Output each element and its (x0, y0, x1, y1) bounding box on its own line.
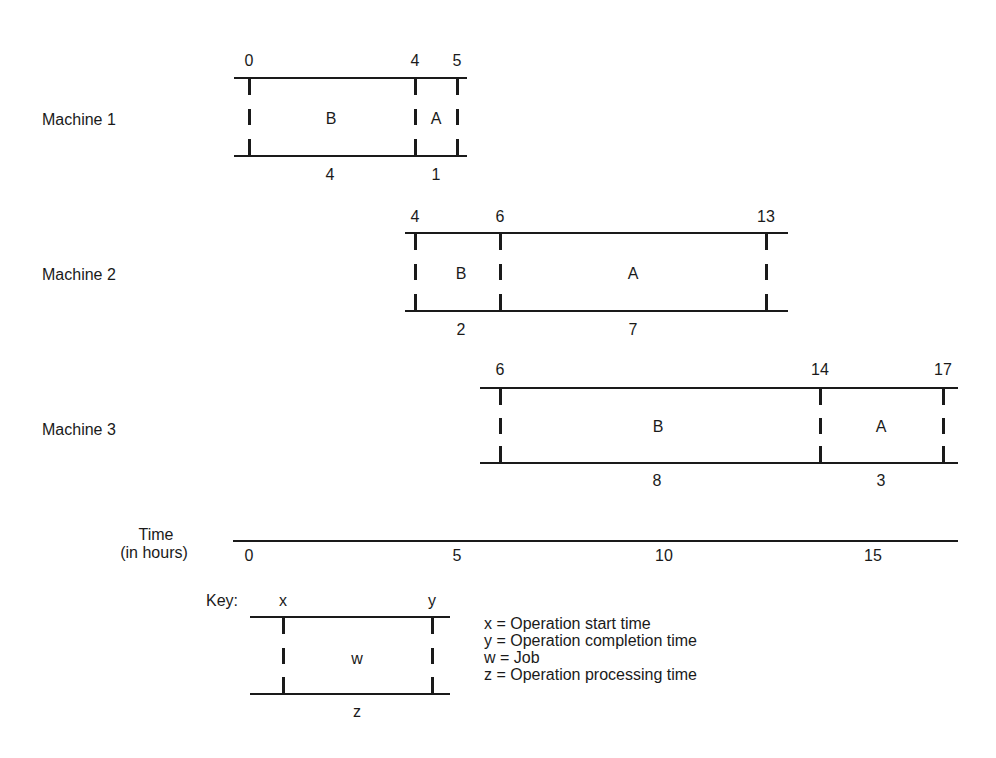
legend-def-job: w = Job (484, 649, 697, 666)
time-tick-5: 5 (453, 547, 462, 565)
machine-2-start-time: 4 (411, 208, 420, 226)
legend-duration-symbol: z (353, 703, 361, 721)
legend-divider-start (282, 618, 285, 693)
machine-2-end-time: 13 (757, 208, 775, 226)
machine-3-divider-mid (819, 389, 822, 462)
machine-3-job-b: B (653, 418, 664, 436)
legend-end-symbol: y (428, 592, 436, 610)
machine-2-bottom-line (405, 310, 788, 312)
time-tick-15: 15 (864, 547, 882, 565)
machine-1-divider-start (248, 79, 251, 155)
legend-bottom-line (250, 693, 450, 695)
machine-3-top-line (480, 387, 958, 389)
legend-divider-end (431, 618, 434, 693)
machine-1-label: Machine 1 (42, 111, 116, 129)
machine-1-duration-a: 1 (432, 166, 441, 184)
time-tick-10: 10 (655, 547, 673, 565)
machine-2-duration-b: 2 (457, 321, 466, 339)
machine-2-divider-start (414, 234, 417, 310)
machine-2-top-line (405, 232, 788, 234)
machine-1-divider-mid (414, 79, 417, 155)
machine-3-duration-a: 3 (877, 472, 886, 490)
machine-1-duration-b: 4 (326, 166, 335, 184)
time-axis-label-line1: Time (139, 526, 174, 544)
machine-1-job-b: B (326, 110, 337, 128)
machine-2-job-b: B (456, 265, 467, 283)
machine-2-label: Machine 2 (42, 266, 116, 284)
machine-1-divider-end (456, 79, 459, 155)
machine-1-top-line (234, 77, 467, 79)
machine-3-divider-end (942, 389, 945, 462)
gantt-diagram: Machine 1 0 4 5 B A 4 1 Machine 2 4 6 13… (0, 0, 996, 758)
machine-3-label: Machine 3 (42, 421, 116, 439)
machine-3-bottom-line (480, 462, 958, 464)
machine-1-end-time: 5 (453, 52, 462, 70)
time-tick-0: 0 (245, 547, 254, 565)
legend-def-processing-time: z = Operation processing time (484, 666, 697, 683)
machine-2-boundary-time: 6 (496, 208, 505, 226)
machine-3-boundary-time: 14 (811, 361, 829, 379)
machine-2-duration-a: 7 (629, 321, 638, 339)
legend-job-symbol: w (351, 650, 363, 668)
time-axis-label-line2: (in hours) (120, 544, 188, 562)
machine-3-divider-start (499, 389, 502, 462)
legend-definitions: x = Operation start time y = Operation c… (484, 615, 697, 683)
machine-2-job-a: A (628, 265, 639, 283)
machine-2-divider-mid (499, 234, 502, 310)
machine-1-boundary-time: 4 (411, 52, 420, 70)
legend-def-completion-time: y = Operation completion time (484, 632, 697, 649)
machine-3-duration-b: 8 (653, 472, 662, 490)
machine-1-start-time: 0 (245, 52, 254, 70)
legend-start-symbol: x (279, 592, 287, 610)
machine-1-bottom-line (234, 155, 467, 157)
machine-3-start-time: 6 (496, 361, 505, 379)
legend-title: Key: (206, 592, 238, 610)
legend-def-start-time: x = Operation start time (484, 615, 697, 632)
machine-3-job-a: A (876, 418, 887, 436)
time-axis-line (233, 540, 958, 542)
machine-3-end-time: 17 (934, 361, 952, 379)
machine-2-divider-end (765, 234, 768, 310)
machine-1-job-a: A (431, 110, 442, 128)
legend-top-line (250, 616, 450, 618)
